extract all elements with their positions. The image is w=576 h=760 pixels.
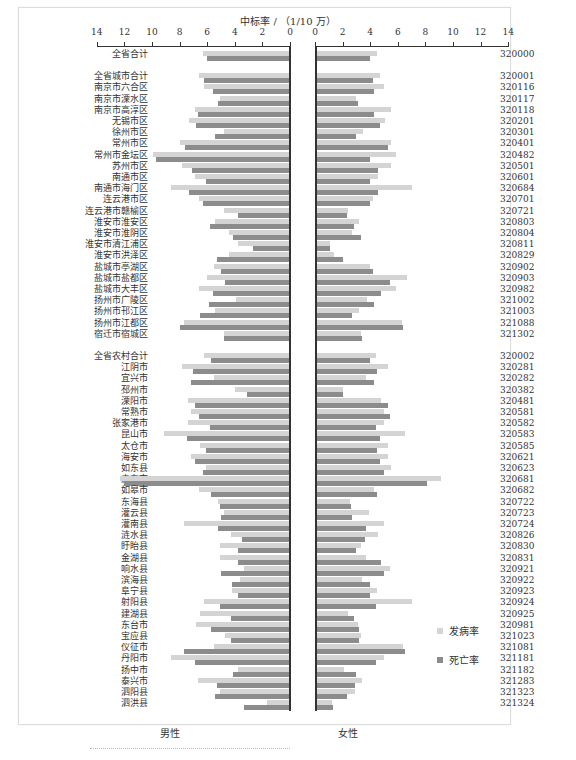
row-label: 响水县 — [40, 564, 148, 575]
region-code: 321088 — [500, 318, 534, 329]
region-code: 320000 — [500, 49, 534, 60]
region-code: 320903 — [500, 273, 534, 284]
region-code: 321081 — [500, 642, 534, 653]
region-code: 320803 — [500, 217, 534, 228]
bar-female-mortality — [315, 492, 377, 497]
row-label: 溧阳市 — [40, 396, 148, 407]
female-panel-label: 女性 — [338, 725, 358, 740]
row-label: 金湖县 — [40, 553, 148, 564]
bar-male-mortality — [247, 392, 290, 397]
bar-male-mortality — [204, 78, 290, 83]
bar-male-mortality — [213, 291, 290, 296]
row-label: 全省农村合计 — [40, 351, 148, 362]
bar-female-mortality — [315, 504, 351, 509]
row-label: 淮安市洪泽区 — [40, 250, 148, 261]
bar-female-mortality — [315, 436, 380, 441]
region-code: 320623 — [500, 463, 534, 474]
bar-female-mortality — [315, 448, 377, 453]
region-code: 320681 — [500, 474, 534, 485]
legend-incidence: 发病率 — [437, 623, 479, 638]
region-code: 321002 — [500, 295, 534, 306]
bar-male-mortality — [244, 705, 290, 710]
bar-male-mortality — [195, 660, 290, 665]
bar-male-mortality — [207, 56, 290, 61]
bar-female-mortality — [315, 660, 376, 665]
row-label: 常州市金坛区 — [40, 150, 148, 161]
bar-female-mortality — [315, 291, 381, 296]
region-code: 320621 — [500, 452, 534, 463]
region-code: 320601 — [500, 172, 534, 183]
row-label: 扬中市 — [40, 665, 148, 676]
bar-male-mortality — [224, 336, 290, 341]
bar-male-mortality — [211, 492, 290, 497]
region-code: 320804 — [500, 228, 534, 239]
bar-female-mortality — [315, 392, 343, 397]
bar-male-mortality — [221, 269, 290, 274]
bar-female-mortality — [315, 134, 356, 139]
bar-male-mortality — [233, 672, 290, 677]
row-label: 扬州市广陵区 — [40, 295, 148, 306]
bar-female-mortality — [315, 481, 427, 486]
row-label: 南通市区 — [40, 172, 148, 183]
region-code: 321182 — [500, 665, 534, 676]
bar-female-mortality — [315, 683, 355, 688]
region-code: 320201 — [500, 116, 534, 127]
axis-tick-label-right: 10 — [447, 27, 458, 37]
chart-title: 中标率 / （1/10 万） — [0, 13, 576, 28]
bar-male-mortality — [242, 537, 290, 542]
row-label: 东海县 — [40, 497, 148, 508]
bar-female-mortality — [315, 537, 365, 542]
bar-male-mortality — [191, 380, 290, 385]
bar-female-mortality — [315, 627, 359, 632]
zero-line-right — [315, 46, 317, 711]
row-label: 丹阳市 — [40, 653, 148, 664]
row-label: 淮安市淮阴区 — [40, 228, 148, 239]
region-code: 320721 — [500, 206, 534, 217]
axis-tick-label-left: 4 — [232, 27, 238, 37]
bar-male-mortality — [217, 257, 290, 262]
bar-male-mortality — [187, 436, 291, 441]
bar-female-mortality — [315, 638, 359, 643]
row-label: 阜宁县 — [40, 586, 148, 597]
region-code: 320982 — [500, 284, 534, 295]
axis-tick-label-right: 12 — [475, 27, 486, 37]
bar-male-mortality — [199, 414, 290, 419]
row-label: 无锡市区 — [40, 116, 148, 127]
region-code: 320301 — [500, 127, 534, 138]
axis-tick-label-left: 8 — [177, 27, 183, 37]
region-code: 320501 — [500, 161, 534, 172]
row-label: 建湖县 — [40, 609, 148, 620]
axis-tick-label-right: 6 — [395, 27, 401, 37]
bar-male-mortality — [203, 201, 290, 206]
bar-male-mortality — [185, 145, 290, 150]
bar-female-mortality — [315, 403, 388, 408]
row-label: 南通市海门区 — [40, 183, 148, 194]
region-code: 320585 — [500, 441, 534, 452]
region-code: 321023 — [500, 631, 534, 642]
bar-male-mortality — [156, 157, 290, 162]
region-code: 321181 — [500, 653, 534, 664]
legend-mortality: 死亡率 — [437, 652, 479, 667]
row-label: 全省合计 — [40, 49, 148, 60]
bar-female-mortality — [315, 123, 380, 128]
bar-male-mortality — [198, 112, 290, 117]
bar-female-mortality — [315, 548, 356, 553]
bar-female-mortality — [315, 235, 361, 240]
axis-tick-label-right: 14 — [502, 27, 513, 37]
region-code: 320830 — [500, 541, 534, 552]
row-label: 连云港市赣榆区 — [40, 206, 148, 217]
row-label: 灌云县 — [40, 508, 148, 519]
bar-male-mortality — [210, 224, 290, 229]
bar-female-mortality — [315, 358, 370, 363]
bar-male-mortality — [232, 582, 290, 587]
bar-male-mortality — [124, 481, 290, 486]
bar-female-mortality — [315, 414, 390, 419]
region-code: 320684 — [500, 183, 534, 194]
region-code: 320826 — [500, 530, 534, 541]
row-label: 南京市高淳区 — [40, 105, 148, 116]
bar-male-mortality — [221, 515, 290, 520]
row-label: 泗洪县 — [40, 698, 148, 709]
region-code: 320382 — [500, 385, 534, 396]
bar-male-mortality — [196, 123, 290, 128]
bar-female-mortality — [315, 325, 403, 330]
